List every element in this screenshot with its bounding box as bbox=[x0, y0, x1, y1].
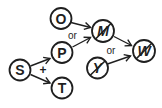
node-Y: Y bbox=[87, 58, 108, 79]
edge-M-W bbox=[114, 37, 132, 46]
node-O: O bbox=[51, 8, 72, 29]
edge-O-M bbox=[71, 23, 91, 28]
node-W: W bbox=[133, 40, 155, 62]
edge-label-plus: + bbox=[39, 63, 46, 77]
diagram-svg: or + or O P S T M Y bbox=[0, 0, 162, 108]
node-S: S bbox=[10, 60, 31, 81]
node-P: P bbox=[52, 42, 73, 63]
edge-label-or-upper: or bbox=[68, 30, 78, 41]
edge-Y-W bbox=[108, 56, 131, 64]
node-O-label: O bbox=[56, 11, 67, 27]
edge-label-or-lower: or bbox=[107, 45, 117, 56]
node-M: M bbox=[92, 20, 114, 42]
flow-diagram: or + or O P S T M Y bbox=[0, 0, 162, 108]
node-T: T bbox=[52, 78, 73, 99]
node-S-label: S bbox=[15, 62, 24, 78]
node-T-label: T bbox=[58, 80, 67, 96]
node-P-label: P bbox=[57, 45, 66, 61]
